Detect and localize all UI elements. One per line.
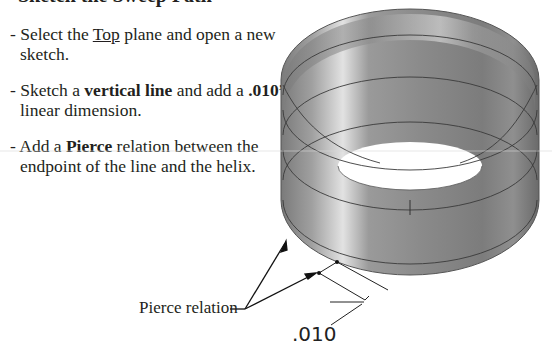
helix-cylinder-figure — [0, 0, 552, 354]
line-endpoint — [335, 260, 339, 264]
pierce-point — [317, 271, 321, 275]
pierce-relation-callout: Pierce relation — [139, 298, 238, 318]
dimension-value: .010 — [292, 322, 337, 346]
callout-leaders — [230, 241, 316, 309]
